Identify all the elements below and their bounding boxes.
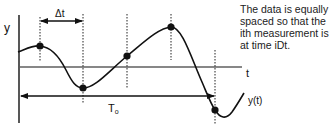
- t-axis-label: t: [246, 67, 249, 79]
- sample-points: [36, 23, 218, 113]
- sample-point: [123, 52, 130, 59]
- curve-label: y(t): [248, 95, 262, 106]
- delta-t-label: Δt: [55, 8, 65, 19]
- sample-point: [211, 106, 218, 113]
- note-text: The data is equally spaced so that the i…: [240, 3, 330, 51]
- y-axis-label: y: [4, 21, 10, 35]
- sample-point: [36, 42, 43, 49]
- period-label: To: [108, 102, 119, 115]
- sample-point: [79, 84, 86, 91]
- signal-curve: [18, 27, 244, 117]
- sample-point: [167, 23, 174, 30]
